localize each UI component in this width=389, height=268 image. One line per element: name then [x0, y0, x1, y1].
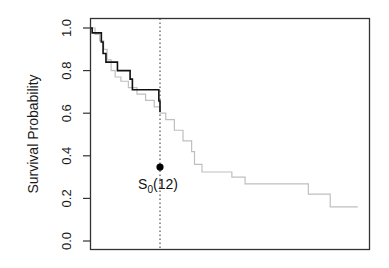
y-tick-label: 0.4 — [59, 147, 74, 165]
plot-area — [91, 19, 370, 250]
y-tick-label: 0.0 — [59, 232, 74, 250]
annot-main: S — [138, 176, 147, 192]
y-tick-label: 1.0 — [59, 19, 74, 37]
s0-annotation-label: S0(12) — [138, 176, 178, 195]
s0-point-marker — [156, 163, 163, 170]
y-tick-label: 0.6 — [59, 104, 74, 122]
y-axis: 0.00.20.40.60.81.0 — [59, 19, 91, 250]
y-tick-label: 0.8 — [59, 62, 74, 80]
y-tick-label: 0.2 — [59, 189, 74, 207]
annot-rest: (12) — [153, 176, 178, 192]
survival-chart: 0.00.20.40.60.81.0 Survival Probability … — [0, 0, 389, 268]
y-axis-label: Survival Probability — [25, 74, 41, 193]
series-layer — [91, 28, 358, 207]
reference-step-curve — [91, 28, 358, 207]
observed-step-curve — [91, 28, 160, 112]
